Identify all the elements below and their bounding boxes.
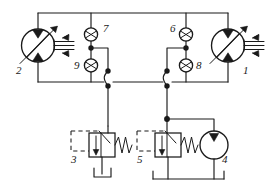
- check-valve-8-assembly: 8: [179, 48, 202, 72]
- relief-valve-5-pilot-box: [137, 131, 155, 151]
- relief-valve-5-spring: [181, 137, 198, 153]
- junction-dot-right-cv: [183, 45, 188, 50]
- label-check-valve-6: 6: [170, 22, 176, 34]
- right-crossover-branch: [163, 45, 188, 116]
- schematic-canvas: 2 1 7 9 6: [0, 0, 276, 194]
- relief-valve-3-pilot-box: [71, 131, 89, 151]
- junction-dot-left-jumper-bottom: [105, 83, 110, 88]
- check-valve-9-assembly: 9: [74, 48, 98, 72]
- pump-2-assembly: 2: [16, 26, 74, 76]
- label-charge-pump-4: 4: [222, 153, 228, 165]
- junction-dot-left-jumper-top: [105, 68, 110, 73]
- hydraulic-schematic-diagram: 2 1 7 9 6: [0, 0, 276, 194]
- relief-valve-3-flow-arrow-head: [93, 150, 99, 156]
- label-pump-2: 2: [16, 64, 22, 76]
- label-check-valve-9: 9: [74, 59, 80, 71]
- relief-valve-5-body: [155, 133, 181, 157]
- label-relief-valve-3: 3: [70, 153, 77, 165]
- relief-valve-3-body: [89, 133, 115, 157]
- label-pump-1: 1: [243, 64, 249, 76]
- main-pressure-rails: [38, 13, 228, 82]
- relief-valve-3-assembly: 3: [70, 126, 132, 177]
- pump-1-assembly: 1: [210, 26, 264, 76]
- check-valve-6-assembly: 6: [170, 22, 193, 48]
- label-check-valve-7: 7: [103, 22, 109, 34]
- label-check-valve-8: 8: [196, 59, 202, 71]
- relief-valve-3-spring: [115, 137, 132, 153]
- junction-dot-left-cv: [88, 45, 93, 50]
- check-valve-7-assembly: 7: [84, 22, 109, 48]
- relief-valve-5-flow-arrow-head: [159, 150, 165, 156]
- label-relief-valve-5: 5: [137, 153, 143, 165]
- charge-pump-4-suction-line: [167, 119, 214, 131]
- junction-dot-right-jumper-bottom: [164, 83, 169, 88]
- junction-dot-charge-feed: [164, 116, 170, 122]
- left-crossover-branch: [88, 45, 110, 126]
- relief-valve-5-assembly: 5: [137, 116, 198, 179]
- charge-pump-4-assembly: 4: [164, 116, 228, 179]
- charge-circuit-tank-rail: [153, 171, 224, 179]
- junction-dot-right-jumper-top: [164, 68, 169, 73]
